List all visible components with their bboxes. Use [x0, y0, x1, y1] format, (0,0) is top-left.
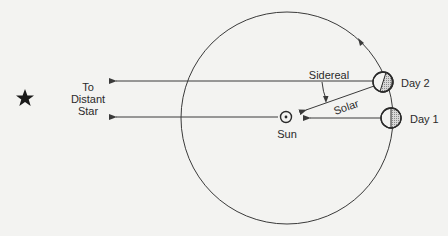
earth-day2-icon — [373, 72, 393, 92]
day2-label: Day 2 — [401, 77, 430, 89]
sun-dot — [285, 116, 288, 119]
sun-label: Sun — [277, 128, 297, 140]
solar-label: Solar — [332, 97, 361, 117]
star-label-line3: Star — [78, 105, 99, 117]
star-label-line2: Distant — [71, 93, 105, 105]
earth-day1-icon — [381, 108, 401, 128]
star-icon — [16, 89, 34, 106]
star-label-line1: To — [82, 81, 94, 93]
day1-label: Day 1 — [410, 113, 439, 125]
sidereal-label: Sidereal — [309, 69, 349, 81]
diagram-canvas: To Distant Star Sidereal Solar Sun Day 2… — [0, 0, 448, 236]
